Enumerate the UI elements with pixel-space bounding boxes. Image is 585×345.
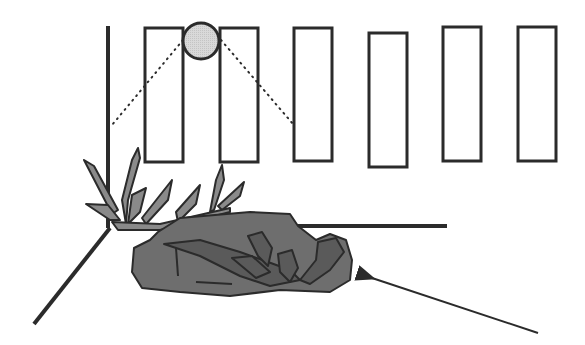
panel-6 [518,27,556,161]
diagonal-axis-line [34,228,110,324]
diagram-canvas [0,0,585,345]
sun-icon [183,23,219,59]
panel-4 [369,33,407,167]
canopy-diagram [0,0,585,345]
panel-2 [220,28,258,162]
pointer-arrow [372,278,538,333]
panel-1 [145,28,183,162]
panel-3 [294,28,332,161]
panel-5 [443,27,481,161]
